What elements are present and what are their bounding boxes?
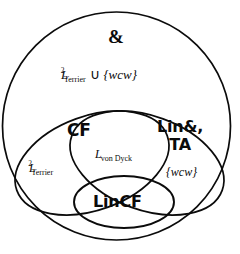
terrier-union-subscript: Terrier xyxy=(64,75,86,84)
terrier-union-set: {wcw} xyxy=(103,67,137,82)
intersection-label-von-dyck: Lvon Dyck xyxy=(95,148,133,160)
set-label-cf: CF xyxy=(67,122,91,139)
outer-region-label-terrier-union: L2Terrier ∪ {wcw} xyxy=(61,67,137,81)
set-label-lin-ta-line2: TA xyxy=(157,136,203,154)
union-operator-icon: ∪ xyxy=(90,66,100,82)
set-label-lin-ta-line1: Lin&, xyxy=(157,118,203,136)
terrier-left-superscript: 2 xyxy=(28,159,32,168)
universe-label-ampersand: & xyxy=(108,27,124,46)
terrier-union-superscript: 2 xyxy=(61,66,65,75)
left-region-label-terrier: L2Terrier xyxy=(29,162,54,174)
von-dyck-subscript: von Dyck xyxy=(101,154,132,163)
venn-diagram-container: & L2Terrier ∪ {wcw} CF Lin&, TA Lvon Dyc… xyxy=(0,0,240,254)
terrier-left-subscript: Terrier xyxy=(31,168,53,177)
set-label-lin-ta: Lin&, TA xyxy=(157,118,203,154)
set-label-lincf: LinCF xyxy=(93,194,142,210)
right-region-label-wcw: {wcw} xyxy=(166,166,197,178)
